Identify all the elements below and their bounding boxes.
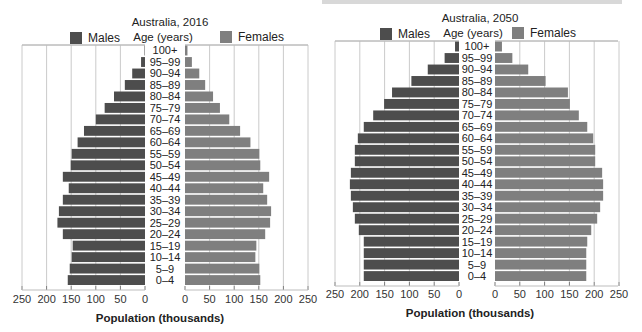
females-bar bbox=[185, 103, 220, 113]
females-bar bbox=[495, 271, 586, 281]
females-bar bbox=[185, 229, 265, 239]
females-bar bbox=[495, 168, 602, 178]
males-bar bbox=[63, 229, 145, 239]
age-group-label: 80–84 bbox=[462, 86, 493, 98]
age-group-label: 35–39 bbox=[462, 190, 493, 202]
age-group-label: 35–39 bbox=[150, 194, 181, 206]
age-group-label: 10–14 bbox=[150, 251, 181, 263]
age-group-label: 0–4 bbox=[468, 270, 486, 282]
x-tick-label: 150 bbox=[560, 288, 578, 300]
age-group-label: 40–44 bbox=[150, 182, 181, 194]
males-bar bbox=[132, 69, 145, 79]
x-tick-label: 200 bbox=[351, 288, 369, 300]
males-bar bbox=[364, 237, 459, 247]
females-bar bbox=[495, 133, 593, 143]
x-tick-label: 50 bbox=[203, 293, 215, 305]
males-bar bbox=[384, 99, 459, 109]
x-axis-label: Population (thousands) bbox=[60, 312, 260, 324]
females-bar bbox=[185, 69, 199, 79]
females-bar bbox=[495, 99, 570, 109]
males-bar bbox=[63, 172, 145, 182]
males-bar bbox=[72, 149, 145, 159]
x-tick-label: 100 bbox=[400, 288, 418, 300]
age-group-label: 95–99 bbox=[150, 56, 181, 68]
pyramid-2050: Australia, 2050 Males Age (years) Female… bbox=[320, 0, 642, 332]
males-bar bbox=[114, 92, 145, 102]
x-tick-label: 150 bbox=[250, 293, 268, 305]
x-tick-label: 50 bbox=[114, 293, 126, 305]
x-tick-label: 50 bbox=[514, 288, 526, 300]
x-tick-label: 100 bbox=[535, 288, 553, 300]
females-bar bbox=[495, 145, 595, 155]
males-bar bbox=[73, 241, 145, 251]
age-group-label: 30–34 bbox=[150, 205, 181, 217]
age-group-label: 25–29 bbox=[150, 217, 181, 229]
males-bar bbox=[359, 225, 459, 235]
age-group-label: 15–19 bbox=[150, 240, 181, 252]
females-bar bbox=[185, 80, 205, 90]
females-bar bbox=[185, 195, 267, 205]
females-bar bbox=[185, 183, 263, 193]
x-tick-label: 250 bbox=[299, 293, 317, 305]
females-bar bbox=[495, 76, 546, 86]
females-bar bbox=[495, 53, 512, 63]
x-tick-label: 200 bbox=[37, 293, 55, 305]
age-group-label: 85–89 bbox=[150, 79, 181, 91]
age-group-label: 25–29 bbox=[462, 213, 493, 225]
females-bar bbox=[185, 149, 259, 159]
x-tick-label: 200 bbox=[274, 293, 292, 305]
males-bar bbox=[70, 264, 145, 274]
females-bar bbox=[495, 88, 568, 98]
x-tick-label: 200 bbox=[585, 288, 603, 300]
females-bar bbox=[495, 110, 579, 120]
females-bar bbox=[185, 46, 187, 56]
males-bar bbox=[351, 168, 459, 178]
age-group-label: 45–49 bbox=[462, 167, 493, 179]
x-tick-label: 150 bbox=[375, 288, 393, 300]
x-tick-label: 100 bbox=[225, 293, 243, 305]
age-group-label: 30–34 bbox=[462, 201, 493, 213]
males-bar bbox=[105, 103, 145, 113]
females-bar bbox=[495, 65, 528, 75]
age-group-label: 100+ bbox=[153, 44, 178, 56]
age-group-label: 85–89 bbox=[462, 75, 493, 87]
pyramid-plot: 005050100100150150200200250250100+95–999… bbox=[320, 0, 642, 332]
males-bar bbox=[57, 218, 145, 228]
males-bar bbox=[428, 65, 459, 75]
age-group-label: 40–44 bbox=[462, 178, 493, 190]
males-bar bbox=[141, 57, 145, 67]
females-bar bbox=[185, 126, 240, 136]
x-tick-label: 0 bbox=[492, 288, 498, 300]
males-bar bbox=[355, 156, 459, 166]
females-bar bbox=[185, 172, 269, 182]
females-bar bbox=[185, 57, 192, 67]
age-group-label: 45–49 bbox=[150, 171, 181, 183]
age-group-label: 60–64 bbox=[462, 132, 493, 144]
age-group-label: 5–9 bbox=[468, 259, 486, 271]
age-group-label: 90–94 bbox=[462, 63, 493, 75]
x-tick-label: 50 bbox=[428, 288, 440, 300]
females-bar bbox=[495, 191, 603, 201]
females-bar bbox=[185, 264, 259, 274]
females-bar bbox=[495, 202, 600, 212]
males-bar bbox=[351, 191, 459, 201]
x-tick-label: 250 bbox=[610, 288, 628, 300]
x-tick-label: 250 bbox=[326, 288, 344, 300]
males-bar bbox=[84, 126, 145, 136]
males-bar bbox=[355, 145, 459, 155]
age-group-label: 75–79 bbox=[150, 102, 181, 114]
age-group-label: 90–94 bbox=[150, 67, 181, 79]
females-bar bbox=[495, 248, 586, 258]
age-group-label: 95–99 bbox=[462, 52, 493, 64]
age-group-label: 10–14 bbox=[462, 247, 493, 259]
age-group-label: 0–4 bbox=[156, 274, 174, 286]
males-bar bbox=[71, 160, 145, 170]
females-bar bbox=[495, 225, 591, 235]
females-bar bbox=[495, 179, 603, 189]
males-bar bbox=[63, 195, 145, 205]
females-bar bbox=[185, 92, 213, 102]
age-group-label: 100+ bbox=[465, 40, 490, 52]
males-bar bbox=[445, 53, 459, 63]
x-tick-label: 0 bbox=[182, 293, 188, 305]
females-bar bbox=[495, 237, 587, 247]
